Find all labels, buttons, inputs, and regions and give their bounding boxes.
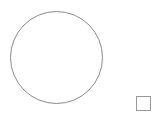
checkbox-square[interactable] [136,96,151,111]
circle-shape [10,11,103,104]
canvas [0,0,156,120]
